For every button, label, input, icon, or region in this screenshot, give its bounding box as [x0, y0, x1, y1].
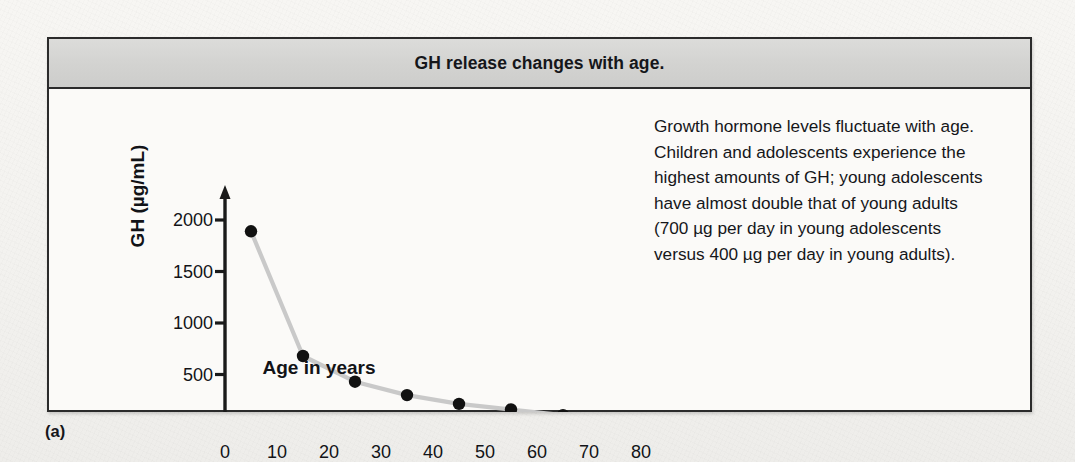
x-axis-tick-label: 60 — [527, 442, 547, 462]
y-axis-title: GH (µg/mL) — [127, 121, 149, 271]
data-point-marker — [245, 225, 257, 237]
figure-title: GH release changes with age. — [415, 53, 665, 74]
data-points — [245, 225, 621, 412]
y-axis-tick-label: 2000 — [109, 210, 213, 231]
data-point-marker — [401, 389, 413, 401]
x-axis-tick-label: 30 — [371, 442, 391, 462]
x-axis-tick-label: 10 — [267, 442, 287, 462]
x-axis-tick-label: 50 — [475, 442, 495, 462]
data-line — [251, 231, 615, 412]
data-point-marker — [557, 409, 569, 412]
panel-label: (a) — [45, 422, 65, 441]
y-axis-arrow — [220, 185, 231, 199]
data-point-marker — [505, 403, 517, 412]
figure-body: 500100015002000 01020304050607080 GH (µg… — [49, 89, 1030, 410]
x-axis-tick-label: 40 — [423, 442, 443, 462]
x-axis-tick-label: 20 — [319, 442, 339, 462]
x-axis-title: Age in years — [169, 357, 469, 379]
chart: 500100015002000 01020304050607080 GH (µg… — [49, 89, 649, 412]
y-axis-tick-label: 1000 — [109, 313, 213, 334]
figure-panel: GH release changes with age. 50010001500… — [47, 37, 1032, 412]
y-axis-tick-label: 1500 — [109, 261, 213, 282]
figure-caption: Growth hormone levels fluctuate with age… — [654, 114, 984, 267]
x-axis-tick-label: 80 — [631, 442, 651, 462]
x-axis-tick-label: 0 — [220, 442, 230, 462]
data-point-marker — [453, 398, 465, 410]
x-axis-tick-label: 70 — [579, 442, 599, 462]
figure-header-band: GH release changes with age. — [49, 39, 1030, 89]
